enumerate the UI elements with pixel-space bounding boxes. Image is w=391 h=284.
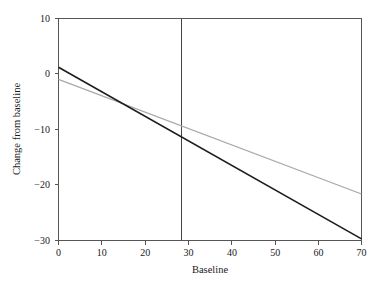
x-tick-label-10: 10 [97,247,107,258]
x-tick-label-0: 0 [56,247,61,258]
x-tick-label-60: 60 [314,247,324,258]
y-tick-label-m10: −10 [34,124,50,135]
y-tick-label-m30: −30 [34,235,50,246]
chart-container: 10 0 −10 −20 −30 0 10 20 30 40 50 60 70 [0,0,391,284]
x-tick-label-70: 70 [357,247,367,258]
y-tick-label-10: 10 [40,13,50,24]
plot-frame [59,19,362,241]
x-tick-label-20: 20 [140,247,150,258]
series-line-steeper [59,67,362,239]
y-axis-title: Change from baseline [11,83,22,175]
x-axis-ticks [59,240,362,245]
x-tick-label-30: 30 [184,247,194,258]
y-axis-ticks [55,19,59,241]
y-tick-label-m20: −20 [34,179,50,190]
x-axis-tick-labels: 0 10 20 30 40 50 60 70 [56,247,367,258]
y-axis-tick-labels: 10 0 −10 −20 −30 [34,13,50,246]
chart-plot: 10 0 −10 −20 −30 0 10 20 30 40 50 60 70 [0,0,391,284]
x-tick-label-40: 40 [227,247,237,258]
series-line-shallower [59,79,362,194]
x-axis-title: Baseline [192,264,228,275]
y-tick-label-0: 0 [45,68,50,79]
x-tick-label-50: 50 [270,247,280,258]
